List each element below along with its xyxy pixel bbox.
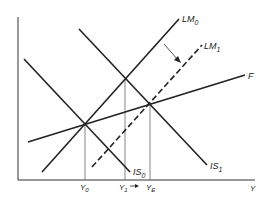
tick-ye: YE [146, 183, 156, 193]
curve-lm0 [42, 19, 179, 172]
label-f: F [248, 71, 254, 81]
curve-f [28, 75, 245, 142]
label-is0: IS0 [133, 167, 146, 179]
tick-y0: Y0 [80, 183, 89, 193]
tick-y1: Y1 [119, 183, 128, 193]
label-is1: IS1 [210, 161, 223, 173]
y1-arrow-head-icon [135, 184, 139, 188]
shift-arrow [164, 44, 178, 60]
label-lm0: LM0 [182, 14, 199, 26]
curve-is1 [79, 29, 207, 165]
label-lm1: LM1 [204, 41, 221, 53]
x-axis-label: Y [250, 184, 256, 193]
is-lm-diagram: LM0 LM1 F IS0 IS1 Y0 Y1 YE Y [0, 0, 268, 201]
